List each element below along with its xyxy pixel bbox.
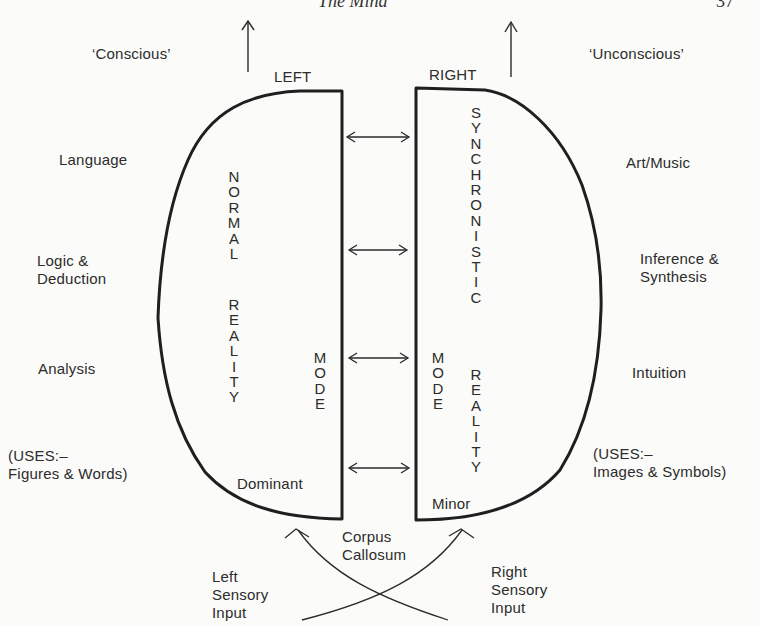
right-function-art-music: Art/Music bbox=[626, 154, 690, 172]
right-function-intuition: Intuition bbox=[632, 364, 686, 382]
corpus-label: Corpus bbox=[342, 528, 392, 546]
vertical-letter: M bbox=[431, 350, 445, 365]
right-reality-vertical-text: REALITY bbox=[469, 367, 483, 475]
right-function-inference: Inference & Synthesis bbox=[640, 250, 719, 286]
dominant-label: Dominant bbox=[237, 475, 303, 493]
vertical-letter: A bbox=[469, 398, 483, 413]
vertical-letter: H bbox=[469, 167, 483, 182]
up-arrow-icon bbox=[505, 22, 517, 77]
vertical-letter: D bbox=[313, 381, 327, 396]
right-title: RIGHT bbox=[429, 66, 477, 84]
double-arrow-icon bbox=[349, 463, 409, 473]
vertical-letter: Y bbox=[469, 120, 483, 135]
vertical-letter: D bbox=[431, 381, 445, 396]
callosum-label: Callosum bbox=[342, 546, 406, 564]
vertical-letter: S bbox=[469, 244, 483, 259]
left-function-logic: Logic & Deduction bbox=[37, 252, 106, 288]
vertical-letter: I bbox=[469, 429, 483, 444]
vertical-letter: E bbox=[313, 396, 327, 411]
vertical-letter: N bbox=[469, 136, 483, 151]
vertical-letter: O bbox=[431, 365, 445, 380]
vertical-letter: E bbox=[469, 382, 483, 397]
unconscious-label: ‘Unconscious’ bbox=[589, 45, 684, 63]
right-hemisphere-outline bbox=[416, 88, 601, 520]
normal-vertical-text: NORMAL bbox=[227, 169, 241, 261]
vertical-letter: O bbox=[227, 184, 241, 199]
vertical-letter: L bbox=[227, 343, 241, 358]
vertical-letter: T bbox=[227, 374, 241, 389]
vertical-letter: E bbox=[227, 312, 241, 327]
vertical-letter: E bbox=[431, 396, 445, 411]
vertical-letter: R bbox=[469, 367, 483, 382]
right-sensory-input-label: Right Sensory Input bbox=[491, 563, 547, 617]
vertical-letter: N bbox=[227, 169, 241, 184]
arrowhead-icon bbox=[285, 529, 309, 538]
vertical-letter: I bbox=[227, 359, 241, 374]
vertical-letter: C bbox=[469, 290, 483, 305]
vertical-letter: I bbox=[469, 274, 483, 289]
vertical-letter: Y bbox=[227, 389, 241, 404]
left-function-language: Language bbox=[59, 151, 127, 169]
vertical-letter: R bbox=[469, 182, 483, 197]
synchronistic-vertical-text: SYNCHRONISTIC bbox=[469, 105, 483, 305]
vertical-letter: O bbox=[469, 197, 483, 212]
double-arrow-icon bbox=[349, 245, 407, 255]
vertical-letter: C bbox=[469, 151, 483, 166]
vertical-letter: N bbox=[469, 213, 483, 228]
conscious-label: ‘Conscious’ bbox=[92, 45, 171, 63]
left-hemisphere-outline bbox=[158, 91, 342, 519]
vertical-letter: Y bbox=[469, 459, 483, 474]
vertical-letter: L bbox=[227, 246, 241, 261]
vertical-letter: M bbox=[313, 350, 327, 365]
double-arrow-icon bbox=[347, 132, 409, 142]
vertical-letter: T bbox=[469, 444, 483, 459]
left-mode-vertical-text: MODE bbox=[313, 350, 327, 412]
vertical-letter: S bbox=[469, 105, 483, 120]
up-arrow-icon bbox=[242, 21, 254, 72]
vertical-letter: O bbox=[313, 365, 327, 380]
right-uses: (USES:– Images & Symbols) bbox=[593, 445, 726, 481]
left-title: LEFT bbox=[274, 68, 311, 86]
vertical-letter: T bbox=[469, 259, 483, 274]
left-sensory-input-label: Left Sensory Input bbox=[212, 568, 268, 622]
vertical-letter: A bbox=[227, 328, 241, 343]
minor-label: Minor bbox=[432, 495, 471, 513]
vertical-letter: I bbox=[469, 228, 483, 243]
vertical-letter: R bbox=[227, 297, 241, 312]
diagram-canvas: The Mind 37 bbox=[0, 0, 760, 627]
vertical-letter: L bbox=[469, 413, 483, 428]
vertical-letter: R bbox=[227, 200, 241, 215]
left-function-analysis: Analysis bbox=[38, 360, 95, 378]
vertical-letter: A bbox=[227, 231, 241, 246]
left-uses: (USES:– Figures & Words) bbox=[8, 447, 128, 483]
left-reality-vertical-text: REALITY bbox=[227, 297, 241, 405]
double-arrow-icon bbox=[349, 353, 408, 363]
right-mode-vertical-text: MODE bbox=[431, 350, 445, 412]
vertical-letter: M bbox=[227, 215, 241, 230]
